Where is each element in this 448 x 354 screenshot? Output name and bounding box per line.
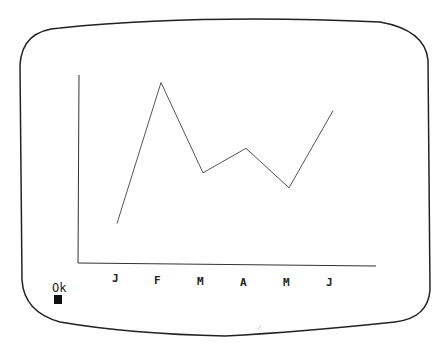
y-axis	[78, 75, 79, 263]
x-tick-label-feb: F	[154, 275, 161, 286]
block-cursor	[54, 295, 62, 304]
x-tick-label-jun: J	[326, 277, 333, 288]
x-axis	[78, 263, 376, 266]
data-line	[117, 83, 333, 224]
smudge-mark	[258, 326, 261, 329]
x-tick-label-may: M	[283, 277, 290, 288]
prompt-text: Ok	[52, 282, 66, 294]
x-tick-label-jan: J	[112, 273, 119, 284]
screen-bezel	[20, 19, 430, 336]
x-tick-label-mar: M	[197, 276, 204, 287]
x-tick-label-apr: A	[240, 277, 247, 288]
crt-screen	[0, 0, 448, 354]
